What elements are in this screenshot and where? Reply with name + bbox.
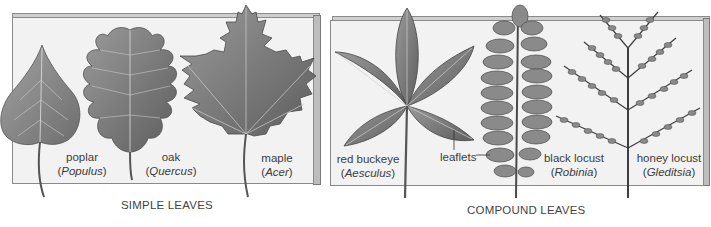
black-locust-label: black locust (Robinia) bbox=[538, 151, 610, 179]
red-buckeye-genus: Aesculus bbox=[345, 167, 392, 179]
maple-label: maple (Acer) bbox=[252, 151, 302, 179]
poplar-genus: Populus bbox=[61, 165, 103, 177]
simple-leaves-caption: SIMPLE LEAVES bbox=[121, 199, 213, 211]
oak-label: oak (Quercus) bbox=[141, 150, 201, 178]
maple-genus: Acer bbox=[265, 166, 289, 178]
oak-genus: Quercus bbox=[149, 165, 192, 177]
honey-locust-genus: Gleditsia bbox=[647, 166, 692, 178]
black-locust-genus: Robinia bbox=[555, 166, 594, 178]
honey-locust-label: honey locust (Gleditsia) bbox=[632, 151, 706, 179]
leaf-illustrations bbox=[0, 0, 711, 227]
poplar-label: poplar (Populus) bbox=[52, 150, 112, 178]
compound-leaves-caption: COMPOUND LEAVES bbox=[467, 204, 585, 216]
red-buckeye-label: red buckeye (Aesculus) bbox=[332, 152, 404, 180]
leaflets-label: leaflets bbox=[440, 150, 480, 164]
